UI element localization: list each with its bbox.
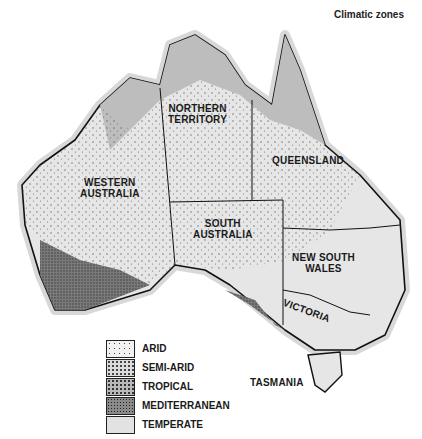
temperate-swatch <box>106 416 135 434</box>
arid-swatch <box>106 340 135 358</box>
legend-item-arid: ARID <box>106 339 230 358</box>
legend-item-semi-arid: SEMI-ARID <box>106 358 230 377</box>
label-northern-territory: NORTHERNTERRITORY <box>168 103 227 125</box>
legend-item-temperate: TEMPERATE <box>106 415 230 434</box>
label-queensland: QUEENSLAND <box>272 155 344 166</box>
mediterranean-swatch <box>106 397 135 415</box>
label-tasmania: TASMANIA <box>250 377 304 388</box>
label-new-south-wales: NEW SOUTHWALES <box>292 252 355 274</box>
semi-arid-swatch <box>106 359 135 377</box>
legend-item-tropical: TROPICAL <box>106 377 230 396</box>
legend-item-mediterranean: MEDITERRANEAN <box>106 396 230 415</box>
tasmania-outline <box>308 352 342 392</box>
label-south-australia: SOUTHAUSTRALIA <box>193 218 253 240</box>
label-western-australia: WESTERNAUSTRALIA <box>80 177 140 199</box>
tropical-swatch <box>106 378 135 396</box>
legend: ARID SEMI-ARID TROPICAL MEDITERRANEAN TE… <box>106 339 230 434</box>
